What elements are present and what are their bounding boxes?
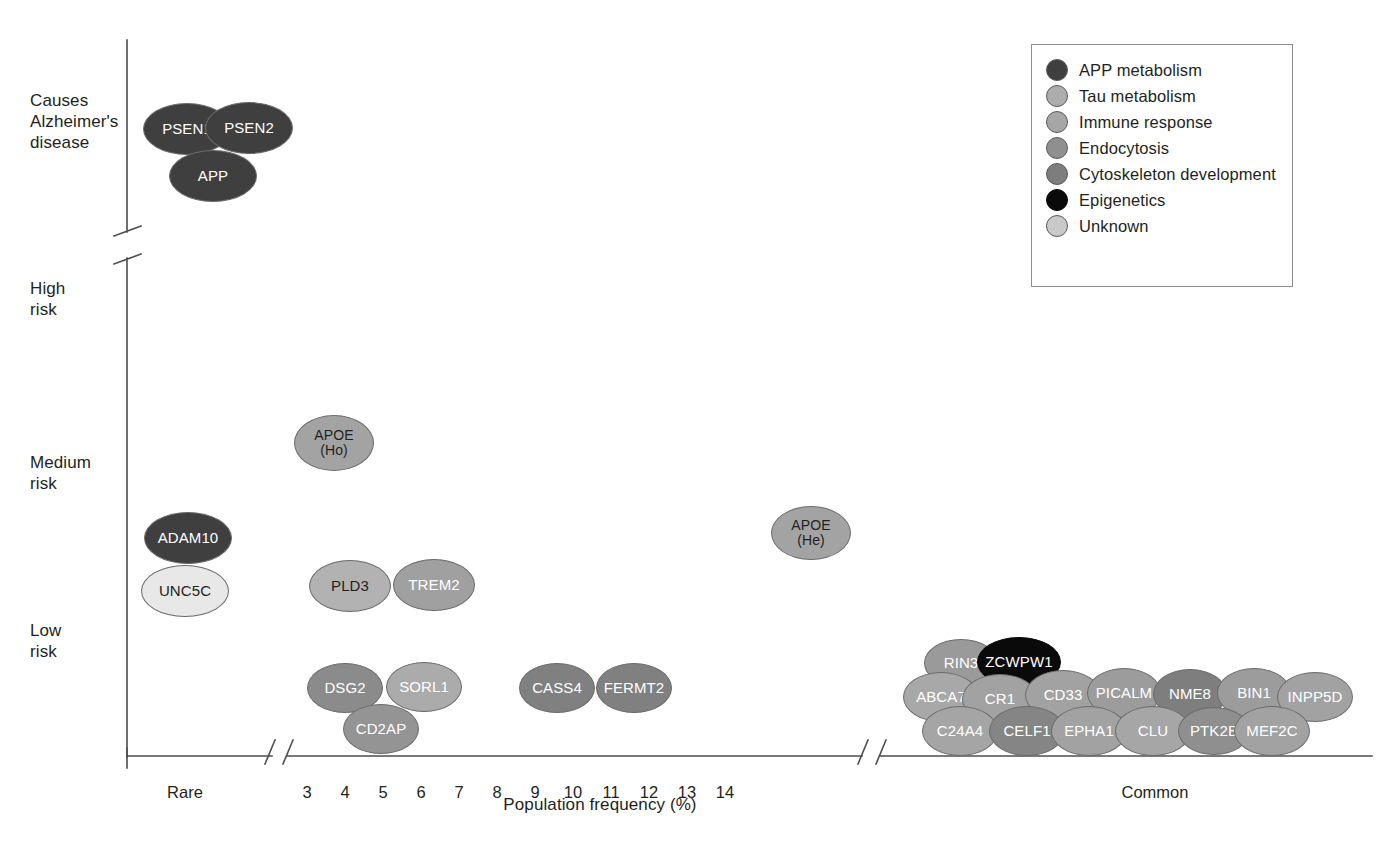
legend-swatch-icon xyxy=(1046,215,1068,237)
legend-item-unknown[interactable]: Unknown xyxy=(1046,213,1276,239)
legend-box: APP metabolismTau metabolismImmune respo… xyxy=(1031,44,1293,287)
gene-node-pld3[interactable]: PLD3 xyxy=(309,560,391,612)
x-axis-break-slash-1 xyxy=(265,740,275,764)
gene-node-label: CD33 xyxy=(1044,687,1083,703)
y-label-low-risk: Lowrisk xyxy=(30,620,62,662)
gene-node-label: CLU xyxy=(1138,723,1168,739)
gene-node-apoe-ho[interactable]: APOE(Ho) xyxy=(294,415,374,471)
legend-item-epigenetics[interactable]: Epigenetics xyxy=(1046,187,1276,213)
gene-node-label: PICALM xyxy=(1096,685,1152,701)
legend-swatch-icon xyxy=(1046,85,1068,107)
legend-swatch-icon xyxy=(1046,59,1068,81)
gene-node-label: CD2AP xyxy=(356,721,407,737)
gene-node-label: SORL1 xyxy=(399,679,449,695)
legend-item-endocytosis[interactable]: Endocytosis xyxy=(1046,135,1276,161)
gene-node-label: INPP5D xyxy=(1288,689,1343,705)
gene-node-label: APOE(Ho) xyxy=(314,428,353,458)
x-tick-label-common: Common xyxy=(1122,783,1189,802)
legend-item-label: Epigenetics xyxy=(1079,191,1165,210)
caption-sliver xyxy=(0,851,1398,857)
legend-swatch-icon xyxy=(1046,111,1068,133)
gene-node-c24a4[interactable]: C24A4 xyxy=(922,706,998,756)
gene-node-fermt2[interactable]: FERMT2 xyxy=(596,663,672,713)
x-axis-title: Population frequency (%) xyxy=(503,795,696,815)
gene-node-label: UNC5C xyxy=(159,583,211,599)
gene-node-label: ZCWPW1 xyxy=(985,654,1052,670)
gene-node-label: CR1 xyxy=(985,691,1015,707)
gene-node-cass4[interactable]: CASS4 xyxy=(519,663,595,713)
gene-node-label: BIN1 xyxy=(1237,685,1271,701)
legend-item-label: APP metabolism xyxy=(1079,61,1202,80)
gene-node-label: PTK2B xyxy=(1190,723,1238,739)
gene-node-label: TREM2 xyxy=(408,577,459,593)
legend-swatch-icon xyxy=(1046,189,1068,211)
legend-swatch-icon xyxy=(1046,163,1068,185)
gene-node-label: APOE(He) xyxy=(791,518,830,548)
gene-node-label: EPHA1 xyxy=(1064,723,1114,739)
gene-node-mef2c[interactable]: MEF2C xyxy=(1234,706,1310,756)
x-axis-break-slash-4 xyxy=(876,740,886,764)
gene-node-sorl1[interactable]: SORL1 xyxy=(386,662,462,712)
gene-node-apoe-he[interactable]: APOE(He) xyxy=(771,506,851,560)
gene-node-psen2[interactable]: PSEN2 xyxy=(205,102,293,154)
legend-item-immune-response[interactable]: Immune response xyxy=(1046,109,1276,135)
y-label-causes-alzheimers-disease: CausesAlzheimer'sdisease xyxy=(30,90,118,153)
x-tick-label-14: 14 xyxy=(716,783,734,802)
legend-item-app-metabolism[interactable]: APP metabolism xyxy=(1046,57,1276,83)
gene-node-adam10[interactable]: ADAM10 xyxy=(144,512,232,564)
gene-node-app[interactable]: APP xyxy=(169,150,257,202)
x-tick-label-3: 3 xyxy=(302,783,311,802)
gene-node-unc5c[interactable]: UNC5C xyxy=(141,565,229,617)
gene-node-cd2ap[interactable]: CD2AP xyxy=(343,704,419,754)
gene-node-trem2[interactable]: TREM2 xyxy=(393,559,475,611)
x-tick-label-7: 7 xyxy=(454,783,463,802)
y-label-medium-risk: Mediumrisk xyxy=(30,452,91,494)
legend-item-cytoskeleton-development[interactable]: Cytoskeleton development xyxy=(1046,161,1276,187)
gene-node-label: ABCA7 xyxy=(916,689,966,705)
gene-node-label: NME8 xyxy=(1169,686,1211,702)
gene-node-label: CASS4 xyxy=(532,680,582,696)
gene-node-label: FERMT2 xyxy=(604,680,665,696)
x-tick-label-6: 6 xyxy=(416,783,425,802)
legend-item-label: Unknown xyxy=(1079,217,1149,236)
gene-node-label: PLD3 xyxy=(331,578,369,594)
x-tick-label-4: 4 xyxy=(340,783,349,802)
gene-node-label: CELF1 xyxy=(1003,723,1050,739)
gene-node-label: APP xyxy=(198,168,228,184)
x-tick-label-8: 8 xyxy=(492,783,501,802)
gene-node-label: DSG2 xyxy=(324,680,365,696)
gene-node-label: MEF2C xyxy=(1246,723,1297,739)
legend-item-label: Tau metabolism xyxy=(1079,87,1196,106)
gene-node-label: PSEN2 xyxy=(224,120,274,136)
gene-node-label: C24A4 xyxy=(937,723,983,739)
legend-item-label: Cytoskeleton development xyxy=(1079,165,1276,184)
x-tick-label-rare: Rare xyxy=(167,783,203,802)
legend-item-tau-metabolism[interactable]: Tau metabolism xyxy=(1046,83,1276,109)
legend-item-label: Immune response xyxy=(1079,113,1213,132)
gene-node-label: ADAM10 xyxy=(158,530,219,546)
x-tick-label-5: 5 xyxy=(378,783,387,802)
y-label-high-risk: Highrisk xyxy=(30,278,65,320)
x-axis-break-slash-3 xyxy=(858,740,868,764)
legend-item-label: Endocytosis xyxy=(1079,139,1169,158)
legend-swatch-icon xyxy=(1046,137,1068,159)
gene-node-label: RIN3 xyxy=(944,655,979,671)
x-axis-break-slash-2 xyxy=(283,740,293,764)
figure-container: CausesAlzheimer'sdisease Highrisk Medium… xyxy=(0,0,1398,857)
